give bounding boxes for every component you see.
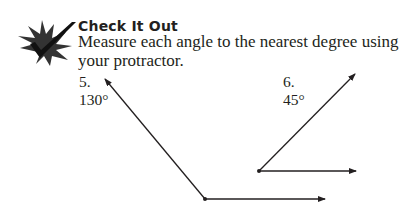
angle-6-vertex xyxy=(257,169,261,173)
angle-5-vertex xyxy=(203,197,207,201)
angle-6 xyxy=(259,74,356,171)
angle-figures xyxy=(0,0,403,213)
angle-5 xyxy=(105,79,325,199)
